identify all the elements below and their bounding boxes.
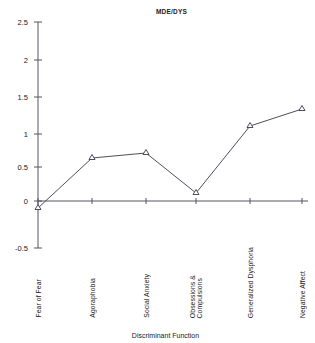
x-category-line: Generalized Dysphoria (247, 247, 254, 318)
x-category-line: Negative Affect (299, 271, 306, 318)
data-point-marker (89, 155, 95, 160)
x-category-label: Obsessions & Compulsions (186, 206, 206, 318)
x-category-label: Fear of Fear (31, 218, 45, 318)
x-category-band: Fear of Fear Agoraphobia Social Anxiety … (0, 206, 315, 318)
x-category-line: Compulsions (196, 278, 203, 318)
y-tick-label: 1 (0, 130, 28, 139)
x-category-line: Agoraphobia (89, 278, 96, 318)
y-tick-label: 1.5 (0, 93, 28, 102)
x-category-line: Social Anxiety (143, 274, 150, 318)
x-category-label: Generalized Dysphoria (243, 206, 257, 318)
x-category-line: Fear of Fear (35, 279, 42, 318)
x-category-label: Agoraphobia (85, 206, 99, 318)
y-tick-label: 0.5 (0, 163, 28, 172)
x-axis-title: Discriminant Function (8, 332, 315, 339)
data-point-marker (143, 150, 149, 155)
y-tick-label: 2.5 (0, 18, 28, 27)
y-tick-label: 0 (0, 197, 28, 206)
data-line (38, 109, 302, 208)
data-point-marker (299, 106, 305, 111)
x-category-label: Negative Affect (295, 206, 309, 318)
chart-figure: MDE/DYS (0, 0, 315, 343)
x-category-label: Social Anxiety (139, 206, 153, 318)
y-tick-label: 2 (0, 56, 28, 65)
x-category-line: Obsessions & (189, 275, 196, 318)
